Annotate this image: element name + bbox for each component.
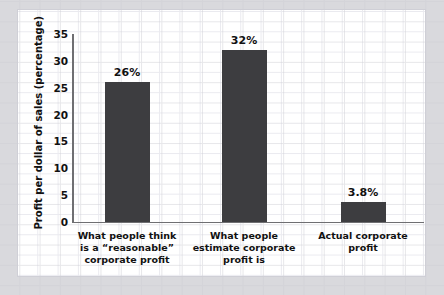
y-tick-0: 0 <box>42 217 68 228</box>
y-tick-35: 35 <box>42 29 68 40</box>
category-label-line: Actual corporate <box>308 230 418 242</box>
category-label-line: estimate corporate <box>185 242 303 254</box>
y-axis-tick-labels: 05101520253035 <box>42 0 68 295</box>
plot-area: Profit per dollar of sales (percentage) … <box>0 0 444 295</box>
bar-1 <box>105 82 150 222</box>
y-tick-30: 30 <box>42 56 68 67</box>
chart-figure: Profit per dollar of sales (percentage) … <box>0 0 444 295</box>
category-label-line: corporate profit <box>67 254 187 266</box>
category-label-line: profit <box>308 242 418 254</box>
category-label-1: What people thinkis a “reasonable”corpor… <box>67 230 187 267</box>
y-axis-line <box>72 34 74 222</box>
bar-value-label-2: 32% <box>204 34 284 47</box>
bar-value-label-1: 26% <box>87 66 167 79</box>
y-tick-10: 10 <box>42 163 68 174</box>
bar-2 <box>222 50 267 222</box>
bar-3 <box>341 202 386 222</box>
category-label-3: Actual corporateprofit <box>308 230 418 254</box>
y-tick-5: 5 <box>42 190 68 201</box>
y-tick-20: 20 <box>42 110 68 121</box>
y-tick-15: 15 <box>42 136 68 147</box>
category-label-line: What people think <box>67 230 187 242</box>
category-label-line: is a “reasonable” <box>67 242 187 254</box>
bar-value-label-3: 3.8% <box>323 186 403 199</box>
category-label-2: What peopleestimate corporateprofit is <box>185 230 303 267</box>
category-label-line: What people <box>185 230 303 242</box>
y-tick-25: 25 <box>42 83 68 94</box>
category-label-line: profit is <box>185 254 303 266</box>
